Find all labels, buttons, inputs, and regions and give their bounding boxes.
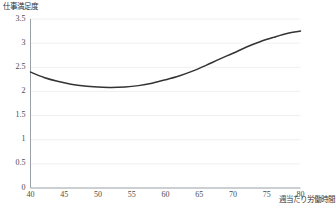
x-tick-label: 55 xyxy=(120,190,144,199)
x-tick-label: 60 xyxy=(154,190,178,199)
gridlines xyxy=(31,19,301,164)
series-line-group xyxy=(31,31,301,88)
x-tick-label: 45 xyxy=(52,190,76,199)
x-tick-label: 70 xyxy=(221,190,245,199)
x-tick-label: 50 xyxy=(86,190,110,199)
y-tick-label: 1.5 xyxy=(4,110,26,119)
plot-area xyxy=(0,0,336,211)
y-tick-label: 3.5 xyxy=(4,14,26,23)
y-tick-label: 2 xyxy=(4,86,26,95)
y-tick-label: 0.5 xyxy=(4,158,26,167)
x-tick-label: 65 xyxy=(187,190,211,199)
series-line-0 xyxy=(31,31,301,88)
y-tick-label: 3 xyxy=(4,38,26,47)
y-tick-label: 2.5 xyxy=(4,62,26,71)
x-tick-label: 75 xyxy=(255,190,279,199)
chart-figure: 仕事満足度 週当たり労働時間 00.511.522.533.5 40455055… xyxy=(0,0,336,211)
axis-lines xyxy=(31,19,301,188)
x-tick-label: 80 xyxy=(289,190,313,199)
y-tick-label: 1 xyxy=(4,134,26,143)
x-tick-label: 40 xyxy=(19,190,43,199)
